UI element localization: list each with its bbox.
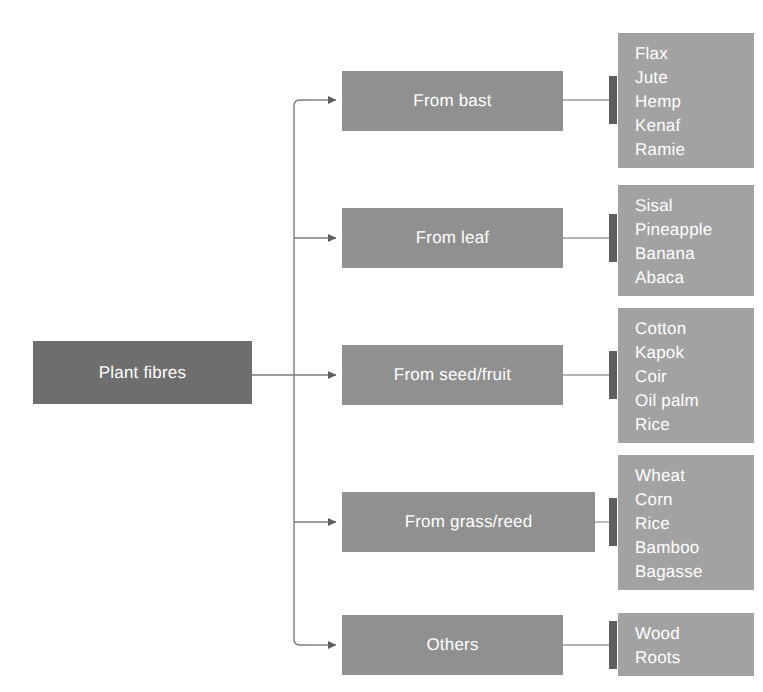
list-item: Sisal <box>635 194 754 218</box>
category-node-from-bast[interactable]: From bast <box>342 71 563 131</box>
plant-fibres-diagram: Plant fibres From bast Flax Jute Hemp Ke… <box>0 0 763 692</box>
list-item: Pineapple <box>635 218 754 242</box>
category-node-from-grass-reed[interactable]: From grass/reed <box>342 492 595 552</box>
list-tick-from-bast <box>609 76 617 124</box>
root-node-plant-fibres[interactable]: Plant fibres <box>33 341 252 404</box>
list-item: Kenaf <box>635 114 754 138</box>
list-tick-from-seed-fruit <box>609 351 617 399</box>
category-node-label: From leaf <box>416 227 490 248</box>
category-node-label: From seed/fruit <box>394 364 511 385</box>
list-item: Rice <box>635 512 754 536</box>
list-tick-from-grass-reed <box>609 498 617 546</box>
list-box-from-bast[interactable]: Flax Jute Hemp Kenaf Ramie <box>618 33 754 168</box>
category-node-others[interactable]: Others <box>342 615 563 675</box>
list-item: Roots <box>635 646 754 670</box>
category-node-label: Others <box>426 634 478 655</box>
list-box-from-grass-reed[interactable]: Wheat Corn Rice Bamboo Bagasse <box>618 455 754 590</box>
list-item: Coir <box>635 365 754 389</box>
trunk-line <box>294 100 305 645</box>
list-item: Abaca <box>635 266 754 290</box>
root-node-label: Plant fibres <box>99 362 186 383</box>
list-item: Corn <box>635 488 754 512</box>
list-box-from-seed-fruit[interactable]: Cotton Kapok Coir Oil palm Rice <box>618 308 754 443</box>
category-node-from-leaf[interactable]: From leaf <box>342 208 563 268</box>
list-item: Bamboo <box>635 536 754 560</box>
category-node-label: From grass/reed <box>405 511 533 532</box>
list-item: Rice <box>635 413 754 437</box>
list-item: Wood <box>635 622 754 646</box>
list-item: Wheat <box>635 464 754 488</box>
list-tick-others <box>609 621 617 669</box>
list-box-from-leaf[interactable]: Sisal Pineapple Banana Abaca <box>618 185 754 296</box>
list-item: Ramie <box>635 138 754 162</box>
list-box-others[interactable]: Wood Roots <box>618 613 754 676</box>
list-item: Jute <box>635 66 754 90</box>
list-item: Cotton <box>635 317 754 341</box>
list-item: Oil palm <box>635 389 754 413</box>
list-item: Bagasse <box>635 560 754 584</box>
category-node-from-seed-fruit[interactable]: From seed/fruit <box>342 345 563 405</box>
list-item: Banana <box>635 242 754 266</box>
list-item: Flax <box>635 42 754 66</box>
list-tick-from-leaf <box>609 214 617 262</box>
category-node-label: From bast <box>413 90 491 111</box>
list-item: Kapok <box>635 341 754 365</box>
list-item: Hemp <box>635 90 754 114</box>
